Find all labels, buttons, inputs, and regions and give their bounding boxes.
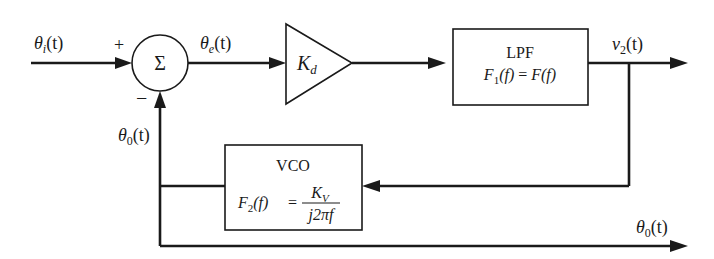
vco-title: VCO bbox=[276, 157, 310, 174]
error-signal-label: θe(t) bbox=[200, 33, 231, 56]
error-arrowhead-icon bbox=[269, 57, 286, 69]
v2-signal-label: v2(t) bbox=[612, 34, 643, 57]
pll-block-diagram: θi(t) + − Σ θe(t) Kd LPF F1(f) = F(f) v2… bbox=[0, 0, 714, 259]
lpf-title: LPF bbox=[506, 44, 534, 61]
gain-block-kd bbox=[286, 24, 352, 104]
vco-input-arrowhead-icon bbox=[362, 180, 380, 192]
summer-minus-sign: − bbox=[136, 87, 147, 109]
feedback-arrowhead-icon bbox=[154, 91, 166, 108]
lpf-input-arrowhead-icon bbox=[428, 57, 446, 69]
v2-output-arrowhead-icon bbox=[670, 57, 688, 69]
summer-plus-sign: + bbox=[114, 35, 124, 55]
input-arrowhead-icon bbox=[115, 57, 132, 69]
vco-equation-denominator: j2πf bbox=[307, 206, 336, 224]
vco-equation-equals: = bbox=[288, 194, 297, 211]
input-signal-label: θi(t) bbox=[34, 33, 63, 56]
summer-sigma-label: Σ bbox=[154, 52, 166, 74]
theta0-output-arrowhead-icon bbox=[670, 240, 688, 252]
theta0-output-label: θ0(t) bbox=[636, 217, 668, 240]
feedback-signal-label: θ0(t) bbox=[118, 125, 150, 148]
